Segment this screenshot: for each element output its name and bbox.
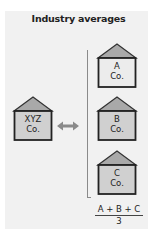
diagram-title: Industry averages bbox=[0, 13, 157, 24]
company-suffix: Co. bbox=[12, 124, 54, 134]
company-suffix: Co. bbox=[96, 71, 138, 81]
formula-denominator: 3 bbox=[95, 216, 143, 227]
company-suffix: Co. bbox=[96, 124, 138, 134]
company-b: B Co. bbox=[96, 96, 138, 142]
company-name: C bbox=[96, 168, 138, 178]
company-xyz: XYZ Co. bbox=[12, 96, 54, 142]
formula-numerator: A + B + C bbox=[95, 204, 143, 216]
company-name: B bbox=[96, 114, 138, 124]
company-name: XYZ bbox=[12, 114, 54, 124]
average-formula: A + B + C 3 bbox=[95, 204, 143, 227]
company-suffix: Co. bbox=[96, 178, 138, 188]
double-arrow-icon bbox=[57, 121, 79, 131]
bracket-foot bbox=[87, 197, 91, 198]
company-c: C Co. bbox=[96, 150, 138, 196]
company-name: A bbox=[96, 61, 138, 71]
company-a: A Co. bbox=[96, 43, 138, 89]
bracket-line bbox=[87, 50, 88, 198]
